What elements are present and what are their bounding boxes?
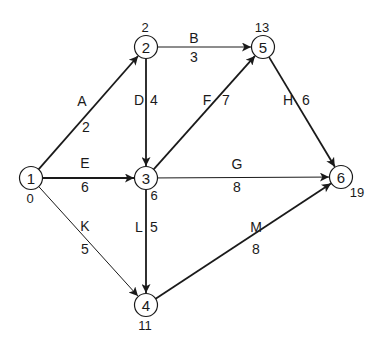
node-earliest-time: 6: [150, 188, 157, 203]
node-number: 2: [142, 39, 150, 56]
project-network-diagram: A2B3D4E6F7G8H6K5L5M8 102236411513619: [0, 0, 384, 350]
edge-f-arrow: [154, 56, 255, 169]
activity-label-g: G: [232, 156, 243, 172]
activity-label-l: L: [135, 219, 143, 235]
activity-label-a: A: [77, 93, 87, 109]
activity-duration-f: 7: [222, 92, 230, 108]
node-earliest-time: 19: [350, 185, 364, 200]
node-number: 4: [142, 297, 150, 314]
activity-label-f: F: [203, 92, 212, 108]
activity-label-h: H: [283, 92, 293, 108]
activity-duration-l: 5: [150, 219, 158, 235]
node-earliest-time: 2: [141, 20, 148, 35]
node-number: 6: [337, 169, 345, 186]
activity-duration-h: 6: [302, 92, 310, 108]
edge-h-arrow: [269, 57, 335, 167]
edges-layer: [39, 47, 335, 299]
nodes-layer: 102236411513619: [20, 20, 365, 333]
edge-m-arrow: [156, 184, 331, 299]
node-earliest-time: 11: [138, 318, 152, 333]
activity-duration-g: 8: [233, 179, 241, 195]
activity-duration-d: 4: [150, 92, 158, 108]
edge-g-arrow: [157, 177, 329, 178]
edge-a-arrow: [39, 56, 138, 169]
event-node-4: 411: [135, 294, 158, 333]
activity-duration-b: 3: [190, 49, 198, 65]
event-node-6: 619: [330, 166, 365, 200]
activity-duration-e: 6: [81, 179, 89, 195]
activity-duration-m: 8: [252, 241, 260, 257]
node-earliest-time: 0: [26, 191, 33, 206]
activity-label-b: B: [189, 30, 198, 46]
activity-label-d: D: [134, 92, 144, 108]
edge-labels-layer: A2B3D4E6F7G8H6K5L5M8: [77, 30, 310, 257]
event-node-5: 513: [252, 20, 275, 59]
activity-label-m: M: [250, 219, 262, 235]
activity-label-e: E: [80, 155, 89, 171]
node-number: 5: [259, 39, 267, 56]
node-number: 1: [27, 170, 35, 187]
activity-duration-k: 5: [81, 241, 89, 257]
activity-duration-a: 2: [82, 119, 90, 135]
node-earliest-time: 13: [255, 20, 269, 35]
node-number: 3: [142, 170, 150, 187]
event-node-2: 22: [135, 20, 158, 59]
activity-label-k: K: [80, 218, 90, 234]
event-node-1: 10: [20, 167, 43, 206]
